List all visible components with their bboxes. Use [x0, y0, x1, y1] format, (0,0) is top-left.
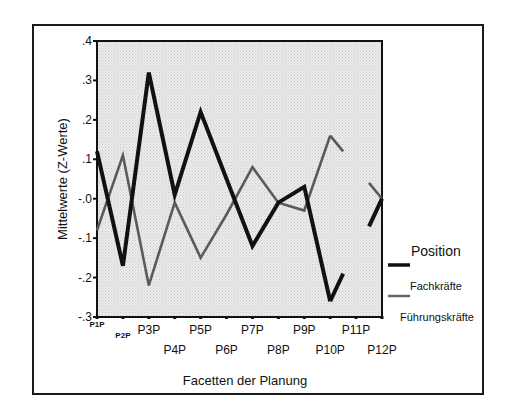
- y-tick-label: .2: [82, 113, 92, 127]
- x-tick: [251, 316, 254, 319]
- x-tick-label: P6P: [215, 343, 238, 357]
- x-tick-label: P10P: [316, 343, 345, 357]
- x-tick: [225, 316, 228, 319]
- legend: Position Fachkräfte Führungskräfte: [388, 243, 474, 323]
- y-axis: .4.3.2.1-.0-.1-.2-.3: [78, 34, 97, 324]
- x-tick: [381, 316, 384, 319]
- x-tick-label: P5P: [189, 323, 212, 337]
- x-tick-label: P1P: [89, 320, 105, 329]
- y-tick-label: .3: [82, 73, 92, 87]
- y-tick-label: .1: [82, 152, 92, 166]
- y-axis-title: Mittelwerte (Z-Werte): [55, 118, 70, 240]
- x-tick: [96, 316, 99, 319]
- x-tick-label: P2P: [115, 331, 131, 340]
- x-tick: [199, 316, 202, 319]
- legend-title: Position: [411, 243, 461, 259]
- x-tick: [173, 316, 176, 319]
- x-tick-label: P3P: [137, 323, 160, 337]
- y-tick-label: -.2: [78, 271, 92, 285]
- x-tick: [121, 316, 124, 319]
- y-tick-label: -.1: [78, 231, 92, 245]
- legend-label-fachkraefte: Fachkräfte: [410, 280, 462, 292]
- x-tick-label: P4P: [163, 343, 186, 357]
- y-tick-label: .4: [82, 34, 92, 48]
- legend-label-fuehrungskraefte: Führungskräfte: [400, 311, 474, 323]
- x-tick: [277, 316, 280, 319]
- y-tick-label: -.0: [78, 192, 92, 206]
- x-tick-label: P9P: [293, 323, 316, 337]
- plot-area: [97, 41, 382, 317]
- line-chart: .4.3.2.1-.0-.1-.2-.3 P1PP2PP3PP4PP5PP6PP…: [0, 0, 510, 418]
- x-tick-label: P11P: [342, 323, 370, 337]
- x-tick: [355, 316, 358, 319]
- x-tick: [147, 316, 150, 319]
- x-tick-label: P7P: [241, 323, 264, 337]
- x-tick-label: P12P: [367, 343, 396, 357]
- x-tick: [303, 316, 306, 319]
- x-axis: P1PP2PP3PP4PP5PP6PP7PP8PP9PP10PP11PP12P: [89, 316, 396, 357]
- x-tick-label: P8P: [267, 343, 290, 357]
- x-axis-title: Facetten der Planung: [183, 373, 307, 388]
- x-tick: [329, 316, 332, 319]
